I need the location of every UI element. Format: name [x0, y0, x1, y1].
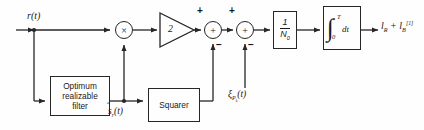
optimum-filter-block[interactable]: Optimumrealizablefilter [50, 76, 110, 116]
junction-dot-shat [122, 99, 126, 103]
summer-2-minus-sign: − [248, 40, 254, 50]
integrator-expression: ∫ T 0 dt [325, 13, 359, 43]
junction-dot-input [32, 28, 36, 32]
filter-output-label: ̂sr(t) [108, 107, 123, 119]
summer-1-minus-sign: − [216, 40, 222, 50]
summer-2-plus-sign: + [229, 6, 235, 16]
integral-upper-limit: T [337, 14, 341, 21]
block-diagram: r(t) × 2 + + − + + − Optimumrealizablefi… [0, 0, 424, 130]
fraction-numerator: 1 [280, 18, 290, 27]
summer-2-symbol: + [242, 25, 248, 36]
summer-1-symbol: + [210, 25, 216, 36]
input-signal-label: r(t) [27, 11, 40, 21]
squarer-block[interactable]: Squarer [148, 88, 200, 122]
optimum-filter-label: Optimumrealizablefilter [62, 81, 98, 111]
shat-symbol: ̂s [108, 107, 112, 117]
squarer-label: Squarer [159, 100, 189, 110]
bias-input-label: ξPk(t) [228, 90, 246, 104]
output-label: lR + lB[1] [381, 21, 413, 34]
gain-normalizer-block[interactable]: 1 N0 [273, 11, 297, 49]
multiplier-symbol: × [121, 25, 127, 36]
gain-normalizer-fraction: 1 N0 [280, 18, 290, 41]
summer-2-node[interactable]: + [236, 21, 254, 39]
integrator-block[interactable]: ∫ T 0 dt [323, 6, 361, 50]
integral-differential: dt [342, 25, 349, 34]
fraction-denominator: N0 [280, 30, 290, 42]
integral-lower-limit: 0 [332, 34, 335, 41]
amplifier-gain-label: 2 [168, 24, 173, 34]
multiplier-node[interactable]: × [115, 21, 133, 39]
summer-1-node[interactable]: + [204, 21, 222, 39]
amplifier-triangle [160, 13, 194, 47]
summer-1-plus-sign: + [197, 6, 203, 16]
